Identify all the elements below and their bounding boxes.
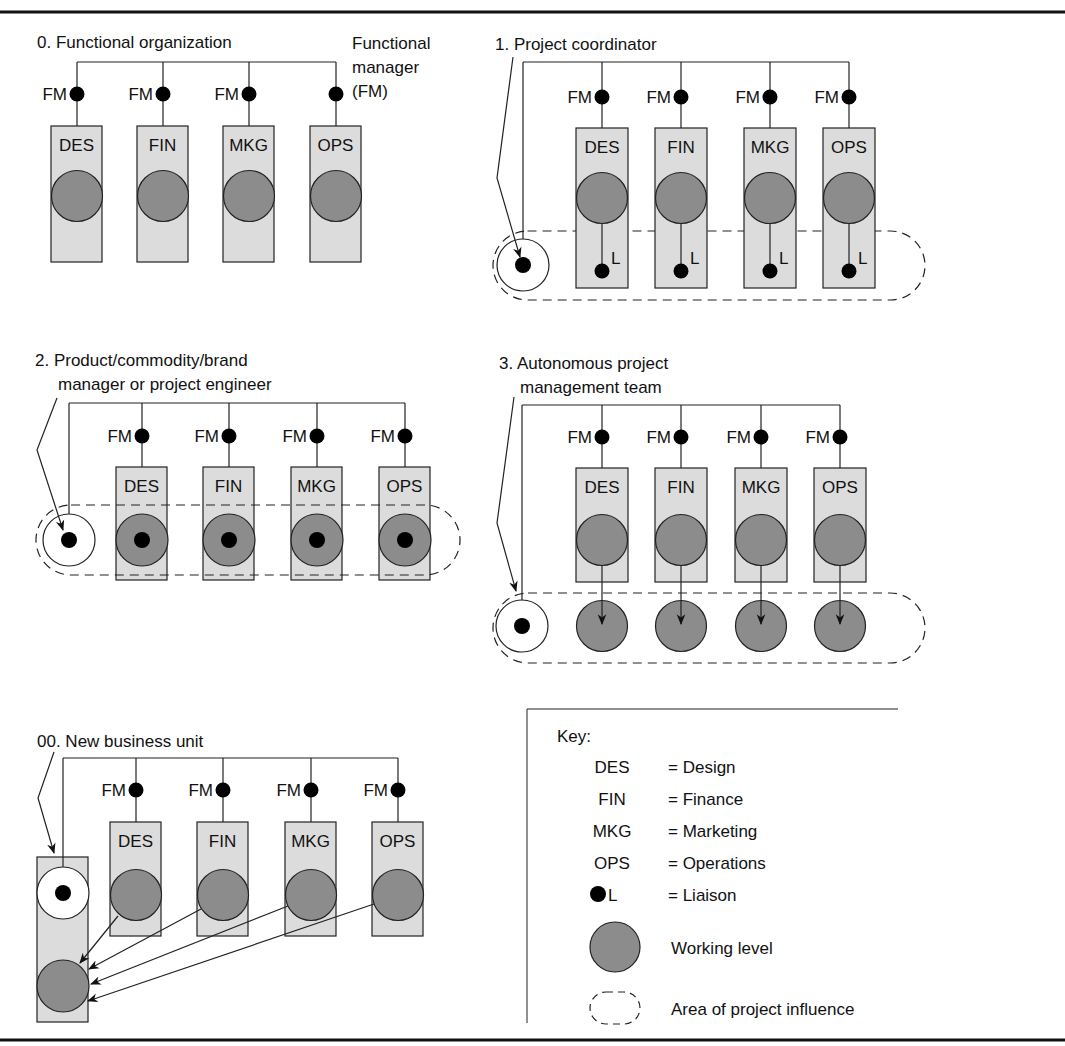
fm-label: FM	[646, 88, 671, 107]
unit-label: DES	[124, 477, 159, 496]
fm-label: FM	[567, 428, 592, 447]
fm-label: FM	[735, 88, 760, 107]
key-symbol-mkg: MKG	[593, 822, 632, 841]
working-level-circle	[745, 173, 796, 224]
key-symbol-des: DES	[595, 758, 630, 777]
fm-annotation-line-3: (FM)	[352, 82, 388, 101]
functional-manager-dot-icon	[329, 87, 344, 102]
unit-label: MKG	[742, 478, 781, 497]
key-influence: Area of project influence	[671, 1000, 854, 1019]
unit-label: MKG	[751, 138, 790, 157]
unit-label: OPS	[831, 138, 867, 157]
liaison-label: L	[779, 249, 788, 268]
unit-label: OPS	[822, 478, 858, 497]
functional-manager-dot-icon	[310, 429, 325, 444]
liaison-dot-icon	[595, 264, 610, 279]
working-level-circle	[656, 173, 707, 224]
panel-product-brand-manager: 2. Product/commodity/brand manager or pr…	[35, 351, 460, 580]
unit-label: DES	[118, 832, 153, 851]
fm-label: FM	[805, 428, 830, 447]
liaison-dot-icon	[134, 532, 150, 548]
functional-manager-dot-icon	[135, 429, 150, 444]
fm-label: FM	[646, 428, 671, 447]
functional-manager-dot-icon	[833, 430, 848, 445]
working-level-circle	[111, 870, 162, 921]
unit-label: DES	[59, 136, 94, 155]
functional-manager-dot-icon	[304, 783, 319, 798]
key-working-level: Working level	[671, 939, 773, 958]
functional-manager-dot-icon	[674, 90, 689, 105]
unit-label: FIN	[667, 138, 694, 157]
fm-label: FM	[101, 781, 126, 800]
unit-label: FIN	[149, 136, 176, 155]
fm-label: FM	[370, 427, 395, 446]
working-level-circle	[138, 171, 189, 222]
organization-structures-diagram: 0. Functional organization Functional ma…	[0, 0, 1065, 1046]
unit-label: OPS	[380, 832, 416, 851]
fm-label: FM	[214, 85, 239, 104]
key-symbol-liaison: L	[608, 886, 617, 905]
fm-label: FM	[107, 427, 132, 446]
title-pointer-arrow	[37, 398, 63, 530]
fm-label: FM	[726, 428, 751, 447]
fm-label: FM	[194, 427, 219, 446]
working-level-circle	[824, 173, 875, 224]
liaison-dot-icon	[397, 532, 413, 548]
key-meaning-design: = Design	[668, 758, 736, 777]
panel-title: 1. Project coordinator	[495, 35, 657, 54]
legend-key: Key: DES = Design FIN = Finance MKG = Ma…	[527, 709, 898, 1024]
panel-title: 00. New business unit	[37, 732, 204, 751]
key-meaning-operations: = Operations	[668, 854, 766, 873]
functional-manager-dot-icon	[842, 90, 857, 105]
functional-manager-dot-icon	[156, 87, 171, 102]
working-level-circle	[736, 515, 787, 566]
liaison-dot-icon	[674, 264, 689, 279]
panel-title-line-2: management team	[520, 378, 662, 397]
functional-manager-dot-icon	[242, 87, 257, 102]
panel-functional-organization: 0. Functional organization Functional ma…	[37, 33, 430, 262]
unit-label: FIN	[209, 832, 236, 851]
panel-title: 0. Functional organization	[37, 33, 232, 52]
functional-manager-dot-icon	[216, 783, 231, 798]
key-symbol-fin: FIN	[598, 790, 625, 809]
fm-label: FM	[282, 427, 307, 446]
project-manager-dot-icon	[61, 532, 77, 548]
panel-title-line-1: 2. Product/commodity/brand	[35, 351, 248, 370]
influence-area-icon	[590, 992, 640, 1024]
fm-label: FM	[128, 85, 153, 104]
working-level-circle	[37, 960, 89, 1012]
fm-annotation-line-2: manager	[352, 58, 419, 77]
working-level-circle	[577, 515, 628, 566]
liaison-dot-icon	[221, 532, 237, 548]
liaison-dot-icon	[309, 532, 325, 548]
functional-manager-dot-icon	[398, 429, 413, 444]
functional-manager-dot-icon	[754, 430, 769, 445]
title-pointer-arrow	[497, 57, 520, 257]
working-level-circle	[815, 515, 866, 566]
fm-label: FM	[42, 85, 67, 104]
unit-label: OPS	[387, 477, 423, 496]
unit-label: FIN	[215, 477, 242, 496]
fm-label: FM	[814, 88, 839, 107]
unit-label: MKG	[229, 136, 268, 155]
liaison-dot-icon	[842, 264, 857, 279]
project-manager-dot-icon	[515, 257, 531, 273]
working-level-icon	[590, 922, 640, 972]
functional-manager-dot-icon	[763, 90, 778, 105]
panel-title-line-2: manager or project engineer	[58, 375, 272, 394]
fm-label: FM	[363, 781, 388, 800]
title-pointer-arrow	[38, 752, 54, 853]
project-manager-dot-icon	[514, 618, 530, 634]
liaison-dot-icon	[590, 886, 606, 902]
project-manager-dot-icon	[55, 885, 71, 901]
title-pointer-arrow	[497, 397, 516, 591]
functional-manager-dot-icon	[222, 429, 237, 444]
panel-autonomous-team: 3. Autonomous project management team FM…	[493, 354, 925, 663]
liaison-dot-icon	[763, 264, 778, 279]
working-level-circle	[373, 870, 424, 921]
fm-annotation-line-1: Functional	[352, 34, 430, 53]
working-level-circle	[286, 870, 337, 921]
liaison-label: L	[611, 249, 620, 268]
panel-new-business-unit: 00. New business unit FMDESFMFINFMMKGFMO…	[37, 732, 424, 1022]
working-level-circle	[656, 515, 707, 566]
